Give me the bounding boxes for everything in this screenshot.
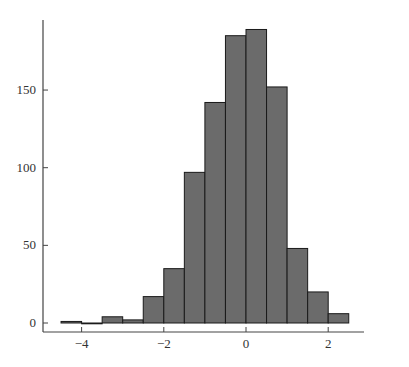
histogram-bar [164, 269, 185, 323]
y-tick-label: 0 [30, 315, 37, 330]
histogram-bar [225, 36, 246, 323]
histogram-bar [82, 323, 103, 324]
histogram-bar [205, 102, 226, 323]
histogram-bars [61, 29, 349, 323]
y-tick-label: 150 [17, 82, 37, 97]
x-tick-label: −2 [157, 336, 171, 351]
histogram-bar [102, 317, 123, 323]
histogram-bar [287, 248, 308, 323]
histogram-bar [267, 87, 288, 323]
y-tick-label: 100 [17, 160, 37, 175]
x-tick-label: 2 [325, 336, 332, 351]
histogram-bar [123, 320, 144, 323]
histogram-bar [143, 297, 164, 323]
histogram-bar [328, 314, 349, 323]
histogram-chart: 050100150 −4−202 [0, 0, 409, 367]
x-tick-label: −4 [75, 336, 89, 351]
histogram-bar [246, 29, 267, 323]
x-axis-ticks: −4−202 [75, 327, 332, 351]
histogram-bar [61, 321, 82, 323]
x-tick-label: 0 [243, 336, 250, 351]
histogram-bar [308, 292, 329, 323]
histogram-bar [184, 172, 205, 323]
y-tick-label: 50 [23, 237, 36, 252]
